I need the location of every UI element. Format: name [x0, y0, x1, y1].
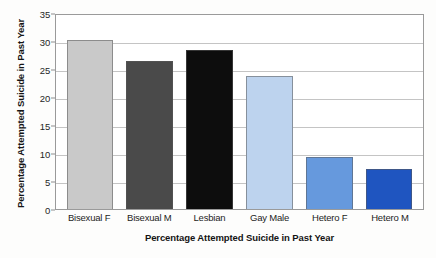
x-tick-label: Lesbian [179, 212, 239, 223]
bar-slot [180, 15, 240, 209]
bar-slot [120, 15, 180, 209]
x-axis-title: Percentage Attempted Suicide in Past Yea… [55, 232, 424, 243]
y-tick-label: 5 [24, 177, 50, 188]
x-axis-tick-labels: Bisexual FBisexual MLesbianGay MaleHeter… [55, 212, 424, 223]
y-tick-label: 20 [24, 93, 50, 104]
y-tick-label: 30 [24, 37, 50, 48]
plot-area [55, 14, 424, 210]
y-tick-label: 10 [24, 149, 50, 160]
x-tick-label: Bisexual F [59, 212, 119, 223]
bar-gay-male[interactable] [246, 76, 293, 209]
bar-hetero-m[interactable] [366, 169, 413, 209]
bar-slot [239, 15, 299, 209]
bar-lesbian[interactable] [186, 50, 233, 209]
bar-bisexual-m[interactable] [126, 61, 173, 209]
bar-slot [60, 15, 120, 209]
bar-slot [299, 15, 359, 209]
x-tick-label: Hetero M [360, 212, 420, 223]
y-axis-tick-labels: 05101520253035 [24, 14, 50, 210]
x-tick-label: Gay Male [240, 212, 300, 223]
bar-bisexual-f[interactable] [67, 40, 114, 209]
y-tick-label: 35 [24, 9, 50, 20]
y-tick-label: 25 [24, 65, 50, 76]
x-tick-label: Bisexual M [119, 212, 179, 223]
y-tick-label: 0 [24, 205, 50, 216]
bar-slot [359, 15, 419, 209]
bar-hetero-f[interactable] [306, 157, 353, 209]
x-tick-label: Hetero F [300, 212, 360, 223]
y-tick-label: 15 [24, 121, 50, 132]
chart-page: Percentage Attempted Suicide in Past Yea… [0, 0, 436, 258]
bar-series [56, 15, 423, 209]
